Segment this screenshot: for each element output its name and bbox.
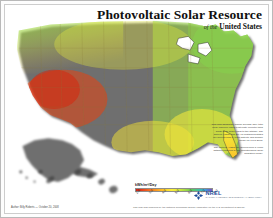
- footer-credit: This map was produced by the National Re…: [133, 206, 245, 209]
- page-title: Photovoltaic Solar Resource: [97, 8, 262, 22]
- solar-resource-poster: Photovoltaic Solar Resource of the Unite…: [0, 0, 273, 218]
- legend-tick: 2.0: [135, 189, 141, 195]
- legend-tick: 5.0: [174, 189, 180, 195]
- legend-tick: 4.0: [161, 189, 167, 195]
- note-paragraph-2: The data for Alaska are derived from a 4…: [211, 146, 263, 156]
- nrel-logo: NREL NATIONAL RENEWABLE ENERGY LABORATOR…: [193, 190, 262, 201]
- poster-plate: Photovoltaic Solar Resource of the Unite…: [4, 4, 269, 214]
- alaska-inset: [17, 136, 95, 180]
- poster-title-block: Photovoltaic Solar Resource of the Unite…: [97, 8, 262, 31]
- poster-subtitle-row: of the United States: [97, 22, 262, 31]
- nrel-tagline: NATIONAL RENEWABLE ENERGY LABORATORY: [205, 196, 262, 201]
- legend-title: kWh/m²/Day: [135, 183, 213, 187]
- nrel-pinwheel-icon: [193, 190, 204, 201]
- note-paragraph-1: This map shows the annual average daily …: [211, 123, 263, 143]
- map-notes: This map shows the annual average daily …: [211, 123, 263, 159]
- legend-tick: 3.0: [148, 189, 154, 195]
- author-credit: Author: Billy Roberts — October 20, 2008: [11, 206, 59, 209]
- subtitle-of-the: of the: [204, 24, 218, 30]
- poster-subtitle: United States: [219, 22, 262, 31]
- nrel-wordmark: NREL NATIONAL RENEWABLE ENERGY LABORATOR…: [205, 191, 262, 200]
